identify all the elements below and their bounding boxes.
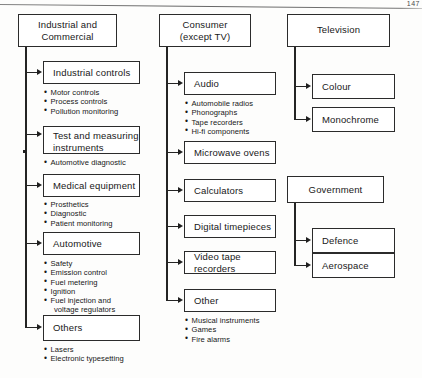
node-television: Television (287, 14, 390, 47)
node-digital-timepieces: Digital timepieces (184, 215, 276, 238)
trunk-government (294, 203, 296, 266)
node-test-and-measuring-instruments: Test and measuring instruments (43, 126, 140, 154)
bullets-medical-equipment: Prosthetics Diagnostic Patient monitorin… (44, 200, 113, 228)
arrow-audio (178, 80, 183, 86)
bullets-other: Musical instruments Games Fire alarms (185, 316, 260, 344)
arrow-medical-equipment (37, 182, 42, 188)
arrow-automotive (37, 240, 42, 246)
arrow-digital-timepieces (178, 223, 183, 229)
bullets-audio: Automobile radios Phonographs Tape recor… (185, 99, 253, 136)
node-audio: Audio (184, 72, 276, 95)
node-colour: Colour (312, 74, 395, 99)
node-calculators: Calculators (184, 179, 276, 202)
arrow-aerospace (306, 262, 311, 268)
bullet-item: Fuel metering (44, 278, 115, 287)
bullet-item: Fuel injection and (44, 296, 115, 305)
bullet-item: Diagnostic (44, 209, 113, 218)
bullet-item: Ignition (44, 287, 115, 296)
trunk-industrial-and-commercial (25, 47, 27, 327)
bullet-item: Musical instruments (185, 316, 260, 325)
node-video-tape-recorders: Video tape recorders (184, 251, 276, 274)
node-medical-equipment: Medical equipment (43, 174, 140, 197)
arrow-others (37, 324, 42, 330)
bullet-item: Pollution monitoring (44, 107, 118, 116)
bullet-item: Fire alarms (185, 335, 260, 344)
arrow-video-tape-recorders (178, 259, 183, 265)
bullet-item-continuation: voltage regulators (44, 305, 115, 314)
bullets-industrial-controls: Motor controls Process controls Pollutio… (44, 88, 118, 116)
arrow-colour (306, 83, 311, 89)
arrow-microwave-ovens (178, 149, 183, 155)
trunk-television (294, 47, 296, 120)
trunk-tick-industrial (23, 150, 26, 153)
bullet-item: Automotive diagnostic (44, 158, 126, 167)
node-others: Others (43, 315, 140, 341)
bullet-item: Electronic typesetting (44, 354, 124, 363)
bullet-item: Lasers (44, 345, 124, 354)
bullet-item: Hi-fi components (185, 127, 253, 136)
bullets-automotive: Safety Emission control Fuel metering Ig… (44, 259, 115, 315)
node-consumer-except-tv: Consumer (except TV) (159, 14, 251, 47)
arrow-industrial-controls (37, 69, 42, 75)
bullet-item: Safety (44, 259, 115, 268)
bullet-item: Prosthetics (44, 200, 113, 209)
page-number: 147 (407, 0, 420, 7)
bullets-test-and-measuring-instruments: Automotive diagnostic (44, 158, 126, 167)
node-defence: Defence (312, 228, 395, 253)
bullet-item: Automobile radios (185, 99, 253, 108)
bullet-item: Patient monitoring (44, 219, 113, 228)
node-aerospace: Aerospace (312, 253, 395, 278)
node-other: Other (184, 289, 276, 312)
node-government: Government (287, 176, 384, 203)
arrow-monochrome (306, 116, 311, 122)
bullet-item: Tape recorders (185, 118, 253, 127)
arrow-calculators (178, 187, 183, 193)
bullet-item: Phonographs (185, 108, 253, 117)
node-industrial-and-commercial: Industrial and Commercial (18, 14, 117, 47)
arrow-other (178, 297, 183, 303)
bullet-item: Process controls (44, 97, 118, 106)
node-industrial-controls: Industrial controls (43, 61, 140, 84)
bullet-item: Games (185, 325, 260, 334)
node-microwave-ovens: Microwave ovens (184, 141, 276, 164)
node-monochrome: Monochrome (312, 107, 395, 132)
arrow-test-and-measuring-instruments (37, 131, 42, 137)
bullet-item: Emission control (44, 268, 115, 277)
bullets-others: Lasers Electronic typesetting (44, 345, 124, 364)
node-automotive: Automotive (43, 232, 140, 255)
arrow-defence (306, 237, 311, 243)
bullet-item: Motor controls (44, 88, 118, 97)
